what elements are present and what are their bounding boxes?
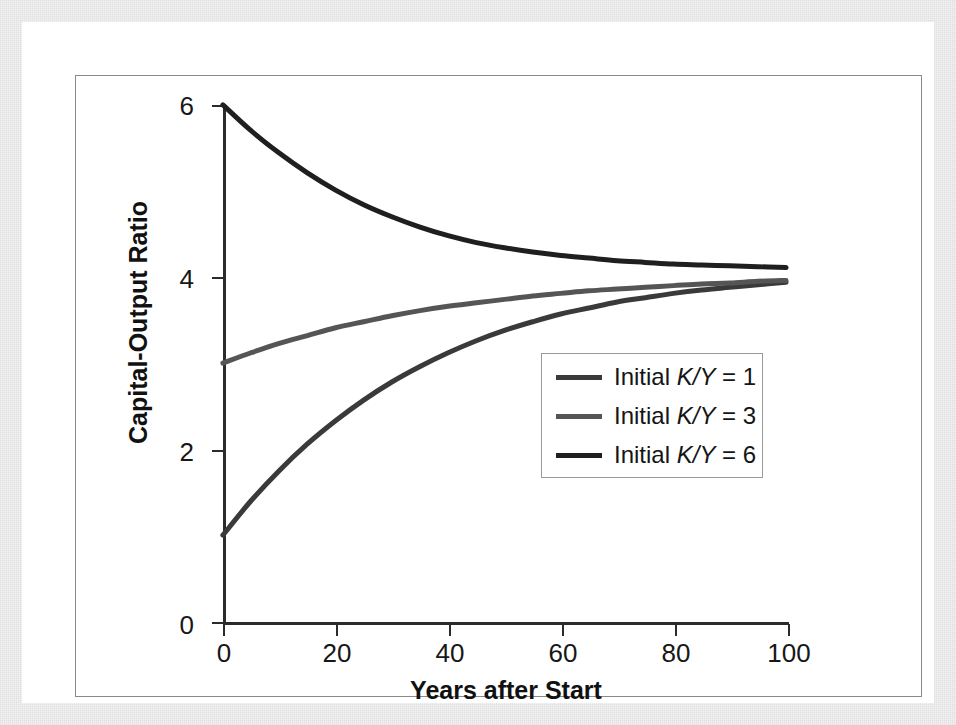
- page-background: Capital-Output Ratio 0 2 4 6 0 20: [0, 0, 956, 725]
- legend-item-ky3[interactable]: Initial K/Y = 3: [556, 399, 756, 433]
- legend-item-ky1[interactable]: Initial K/Y = 1: [556, 360, 756, 394]
- legend-label-ky1: Initial K/Y = 1: [614, 363, 756, 391]
- legend-swatch-ky1: [556, 375, 602, 380]
- legend-label-ky6: Initial K/Y = 6: [614, 441, 756, 469]
- plot-area: [76, 76, 921, 696]
- legend-label-ky3: Initial K/Y = 3: [614, 402, 756, 430]
- figure-panel: Capital-Output Ratio 0 2 4 6 0 20: [22, 22, 934, 703]
- series-line-3: [223, 105, 786, 268]
- series-line-2: [223, 280, 786, 363]
- legend-swatch-ky6: [556, 453, 602, 458]
- chart-legend: Initial K/Y = 1 Initial K/Y = 3 Initial …: [541, 353, 763, 478]
- legend-swatch-ky3: [556, 414, 602, 419]
- legend-item-ky6[interactable]: Initial K/Y = 6: [556, 438, 756, 472]
- chart-frame: Capital-Output Ratio 0 2 4 6 0 20: [75, 75, 922, 697]
